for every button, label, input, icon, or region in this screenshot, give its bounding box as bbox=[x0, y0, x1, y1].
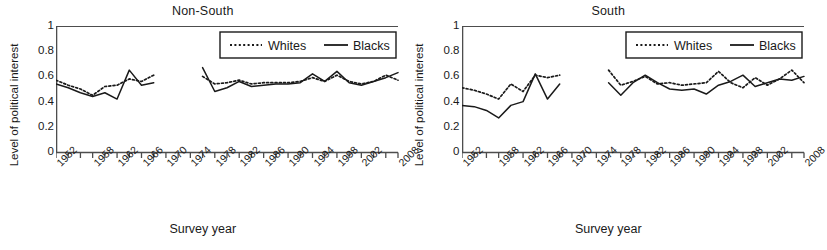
y-tick-label: 0 bbox=[48, 146, 54, 158]
y-tick-label: 0.4 bbox=[444, 96, 460, 108]
y-tick-labels: 00.20.40.60.81 bbox=[434, 26, 460, 152]
y-tick-labels: 00.20.40.60.81 bbox=[28, 26, 54, 152]
panel-non-south: Non-South Level of political interest 00… bbox=[0, 0, 406, 250]
series-line-blacks bbox=[608, 75, 803, 95]
y-tick-label: 0.8 bbox=[444, 45, 460, 57]
y-tick-label: 0.2 bbox=[38, 121, 54, 133]
series-line-blacks bbox=[462, 74, 560, 118]
y-axis-label-text: Level of political interest bbox=[414, 44, 426, 167]
y-tick-label: 0.6 bbox=[444, 71, 460, 83]
y-tick-label: 0 bbox=[453, 146, 459, 158]
x-axis-label: Survey year bbox=[0, 222, 406, 236]
panel-title: South bbox=[406, 4, 812, 18]
y-axis-label: Level of political interest bbox=[6, 30, 22, 180]
x-tick-labels: 1952195819621966197019741978198219861990… bbox=[56, 154, 398, 214]
x-axis-label: Survey year bbox=[406, 222, 812, 236]
legend: WhitesBlacks bbox=[220, 32, 396, 58]
panel-south: South Level of political interest 00.20.… bbox=[406, 0, 812, 250]
y-axis-label-text: Level of political interest bbox=[8, 44, 20, 167]
y-tick-label: 1 bbox=[453, 20, 459, 32]
legend-label-blacks: Blacks bbox=[353, 39, 390, 53]
plot-area-wrapper: 00.20.40.60.81 WhitesBlacks 195219581962… bbox=[434, 26, 804, 176]
legend: WhitesBlacks bbox=[626, 32, 802, 58]
y-tick-label: 0.4 bbox=[38, 96, 54, 108]
plot-area-wrapper: 00.20.40.60.81 WhitesBlacks 195219581962… bbox=[28, 26, 398, 176]
y-tick-label: 1 bbox=[48, 20, 54, 32]
y-tick-label: 0.2 bbox=[444, 121, 460, 133]
legend-label-whites: Whites bbox=[268, 39, 306, 53]
y-axis-label: Level of political interest bbox=[412, 30, 428, 180]
y-tick-label: 0.6 bbox=[38, 71, 54, 83]
legend-label-blacks: Blacks bbox=[759, 39, 796, 53]
legend-label-whites: Whites bbox=[674, 39, 712, 53]
series-line-blacks bbox=[203, 68, 398, 92]
series-line-blacks bbox=[56, 70, 154, 99]
y-tick-label: 0.8 bbox=[38, 45, 54, 57]
panel-title: Non-South bbox=[0, 4, 406, 18]
x-tick-labels: 1952195819621966197019741978198219861990… bbox=[462, 154, 804, 214]
